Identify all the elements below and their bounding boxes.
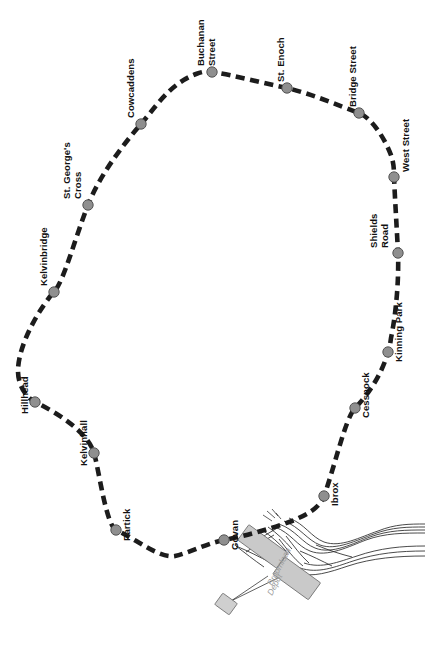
subway-map-canvas: Broomloan Depot Buchanan S	[0, 0, 425, 647]
station-label-kelvinhall: Kelvinhall	[78, 420, 89, 466]
station-label-govan: Govan	[229, 520, 240, 550]
station-dot-buchanan-street[interactable]	[207, 67, 217, 77]
station-dot-ibrox[interactable]	[319, 491, 329, 501]
station-labels: Buchanan Street St. Enoch Bridge Street …	[19, 19, 411, 550]
station-label-st-georges-cross-line-2: Cross	[72, 172, 83, 199]
station-dot-cowcaddens[interactable]	[136, 119, 146, 129]
station-label-buchanan-street-line-2: Street	[206, 38, 217, 66]
subway-map: Broomloan Depot Buchanan S	[0, 0, 425, 647]
station-dot-kelvinhall[interactable]	[89, 448, 99, 458]
station-label-st-enoch: St. Enoch	[275, 37, 286, 82]
station-dot-govan[interactable]	[219, 535, 229, 545]
station-label-west-street: West Street	[400, 118, 411, 172]
station-label-kinning-park: Kinning Park	[393, 302, 404, 362]
subway-route-line	[18, 71, 398, 556]
depot-outbuilding	[215, 593, 238, 615]
station-dot-cessnock[interactable]	[350, 403, 360, 413]
station-dot-kelvinbridge[interactable]	[49, 287, 59, 297]
station-dot-bridge-street[interactable]	[354, 108, 364, 118]
station-dot-partick[interactable]	[111, 525, 121, 535]
broomloan-depot-group: Broomloan Depot	[215, 509, 425, 615]
station-label-st-georges-cross-line-1: St. George's	[61, 142, 72, 199]
station-dot-hillhead[interactable]	[30, 397, 40, 407]
station-label-kelvinbridge: Kelvinbridge	[38, 227, 49, 286]
station-label-partick: Partick	[121, 508, 132, 541]
station-dot-shields-road[interactable]	[393, 248, 403, 258]
station-dot-st-enoch[interactable]	[282, 83, 292, 93]
station-label-cowcaddens: Cowcaddens	[125, 58, 136, 118]
station-label-hillhead: Hillhead	[19, 376, 30, 414]
station-dot-kinning-park[interactable]	[383, 347, 393, 357]
station-label-ibrox: Ibrox	[329, 482, 340, 506]
station-label-shields-road-line-1: Shields	[368, 214, 379, 249]
station-label-bridge-street: Bridge Street	[347, 45, 358, 107]
station-label-shields-road-line-2: Road	[379, 224, 390, 248]
depot-points-marker	[263, 509, 281, 521]
station-label-cessnock: Cessnock	[360, 372, 371, 418]
station-dot-west-street[interactable]	[389, 172, 399, 182]
station-dot-st-georges-cross[interactable]	[83, 200, 93, 210]
station-markers	[30, 67, 403, 545]
station-label-buchanan-street-line-1: Buchanan	[195, 19, 206, 66]
